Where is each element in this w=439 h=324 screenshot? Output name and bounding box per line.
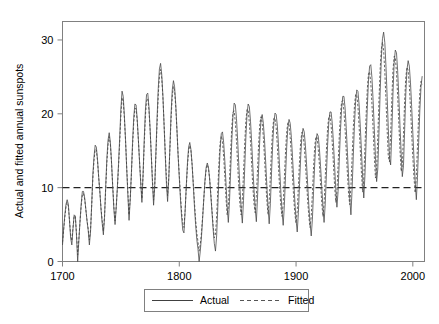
x-tick-label: 1800 — [167, 270, 191, 282]
sunspot-chart: 0102030 1700180019002000 Actual and fitt… — [0, 0, 439, 324]
x-tick-label: 1900 — [284, 270, 308, 282]
x-tick-label: 1700 — [50, 270, 74, 282]
y-tick-label: 30 — [41, 34, 53, 46]
legend: Actual Fitted — [145, 290, 315, 312]
legend-label-actual: Actual — [200, 294, 229, 306]
y-tick-label: 20 — [41, 108, 53, 120]
legend-label-fitted: Fitted — [288, 294, 314, 306]
y-tick-label: 10 — [41, 182, 53, 194]
y-tick-label: 0 — [47, 256, 53, 268]
y-axis-title: Actual and fitted annual sunspots — [13, 64, 25, 219]
x-tick-label: 2000 — [401, 270, 425, 282]
